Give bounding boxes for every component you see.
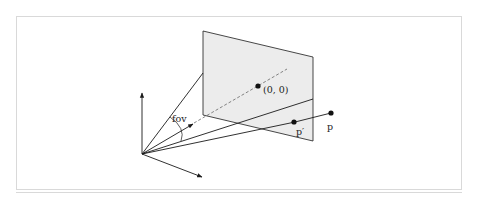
p-prime-label: p′ — [296, 126, 304, 137]
p-label: p — [327, 121, 333, 132]
right-axis-arrow — [142, 154, 202, 177]
camera-diagram: fov (0, 0) p′ p — [0, 0, 479, 197]
center-point — [255, 83, 260, 88]
point-p — [328, 110, 333, 115]
center-label: (0, 0) — [263, 84, 289, 95]
optical-axis-arrow — [142, 124, 193, 154]
fov-label: fov — [172, 113, 187, 124]
projected-point-p-prime — [291, 119, 296, 124]
projection-ray — [142, 122, 295, 154]
